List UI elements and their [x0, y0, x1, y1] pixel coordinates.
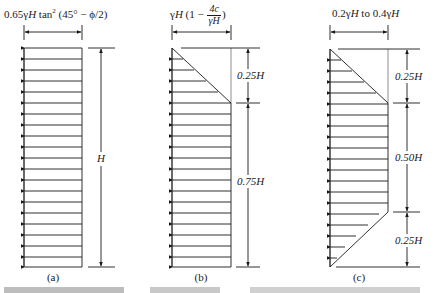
caption-fragment-2: [150, 287, 220, 293]
panel-b-caption: (b): [186, 271, 216, 283]
panel-c: [330, 25, 422, 267]
panel-b-top-segment-label: 0.25H: [237, 70, 264, 81]
panel-b-pressure-arrows: [173, 59, 231, 267]
panel-b-bottom-segment-label: 0.75H: [237, 176, 264, 187]
caption-fragment-1: [4, 287, 124, 293]
panel-a: [24, 25, 115, 267]
panel-c-pressure-arrows: [331, 60, 388, 258]
panel-c-caption: (c): [344, 271, 374, 283]
pressure-diagrams: [0, 0, 434, 293]
panel-c-bottom-segment-label: 0.25H: [395, 235, 422, 246]
cropped-figure-caption: [0, 284, 434, 293]
panel-c-middle-segment-label: 0.50H: [395, 152, 422, 163]
panel-c-top-segment-label: 0.25H: [395, 71, 422, 82]
panel-b: [172, 25, 264, 267]
panel-a-height-label: H: [97, 153, 105, 164]
panel-a-pressure-arrows: [25, 48, 82, 267]
caption-fragment-3: [250, 287, 420, 293]
panel-a-caption: (a): [38, 271, 68, 283]
